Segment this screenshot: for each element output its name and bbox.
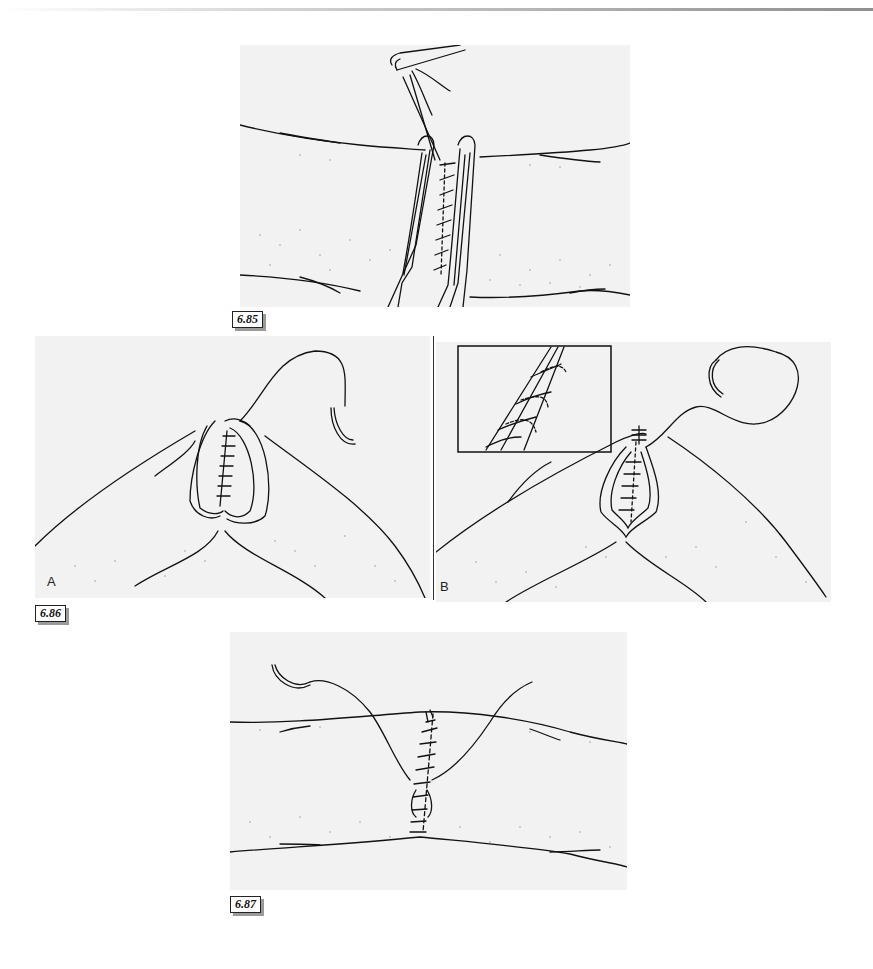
figure-label-6-87: 6.87 <box>230 896 261 913</box>
figure-label-6-85: 6.85 <box>232 311 263 328</box>
panel-letter-a: A <box>47 574 56 589</box>
completed-closure-drawing <box>230 632 627 890</box>
everted-closure-drawing <box>35 336 430 598</box>
figure-6-86-panel-a: A <box>35 336 430 598</box>
page-header-rule <box>0 8 873 11</box>
forceps-suture-drawing <box>240 45 630 307</box>
figure-6-87-illustration <box>230 632 627 890</box>
figure-6-86-panel-b: B <box>436 342 831 602</box>
figure-6-85-illustration <box>240 45 630 307</box>
figure-label-6-86: 6.86 <box>35 605 66 622</box>
panel-divider <box>433 336 434 600</box>
panel-letter-b: B <box>440 579 449 594</box>
continued-suture-drawing <box>436 342 831 602</box>
